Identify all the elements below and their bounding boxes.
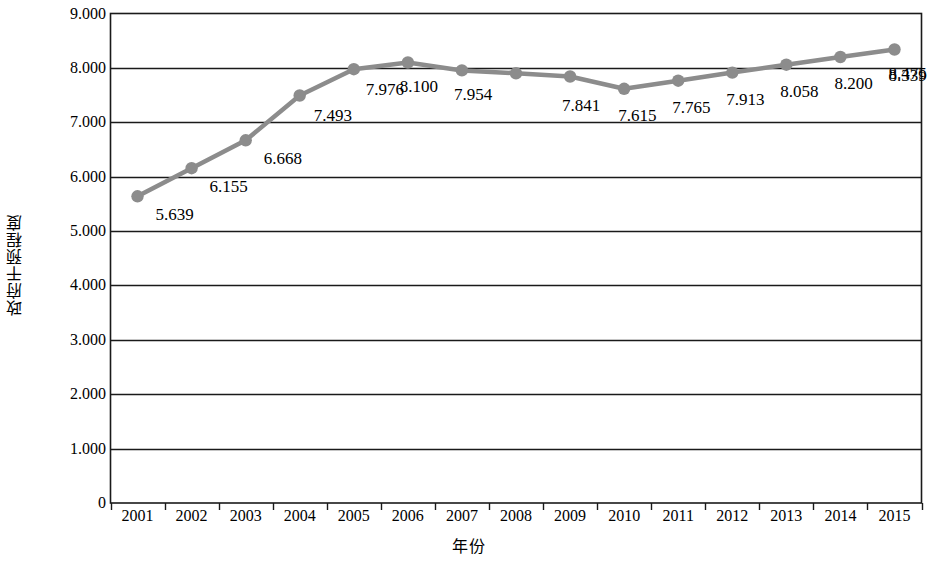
data-point-marker — [834, 51, 846, 63]
data-point-label: 7.913 — [726, 91, 764, 109]
data-point-marker — [240, 134, 252, 146]
data-point-marker — [402, 56, 414, 68]
data-point-label: 6.668 — [264, 150, 302, 168]
data-point-marker — [780, 58, 792, 70]
x-axis-title: 年份 — [0, 533, 938, 557]
data-point-label-final: 8.475 — [888, 65, 926, 83]
data-point-label: 8.100 — [400, 78, 438, 96]
data-point-label: 5.639 — [156, 206, 194, 224]
data-point-label: 7.954 — [454, 86, 492, 104]
data-point-label: 7.493 — [314, 107, 352, 125]
data-point-label: 6.155 — [210, 178, 248, 196]
data-point-label: 7.841 — [562, 97, 600, 115]
data-point-marker — [564, 70, 576, 82]
line-chart: 政府干预程度 9.0008.0007.0006.0005.0004.0003.0… — [0, 0, 938, 565]
data-point-marker — [294, 89, 306, 101]
data-point-marker — [131, 190, 143, 202]
data-point-marker — [348, 63, 360, 75]
data-point-marker — [726, 66, 738, 78]
x-axis-tick-label: 2015 — [862, 506, 926, 526]
data-point-label: 7.976 — [366, 81, 404, 99]
data-point-label: 7.615 — [618, 107, 656, 125]
data-point-marker — [672, 75, 684, 87]
data-point-marker — [456, 64, 468, 76]
data-point-label: 8.058 — [780, 83, 818, 101]
x-axis-tick-labels: 2001200220032004200520062007200820092010… — [0, 506, 938, 530]
data-point-marker — [888, 43, 900, 55]
data-point-label: 8.200 — [834, 75, 872, 93]
data-point-marker — [510, 67, 522, 79]
data-point-label: 7.765 — [672, 99, 710, 117]
gridlines — [111, 69, 922, 450]
data-point-marker — [185, 162, 197, 174]
data-point-marker — [618, 83, 630, 95]
